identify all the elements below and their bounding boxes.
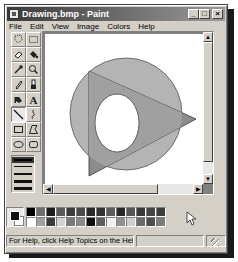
line-width-2[interactable] — [14, 166, 32, 167]
tool-brush[interactable] — [26, 77, 41, 92]
tool-fill[interactable] — [26, 47, 41, 62]
scroll-down-button[interactable]: ▼ — [203, 174, 213, 184]
palette-swatch[interactable] — [56, 207, 66, 217]
paint-bucket-icon — [28, 49, 39, 60]
palette-swatch[interactable] — [146, 207, 156, 217]
palette-swatch[interactable] — [86, 217, 96, 227]
palette-swatch[interactable] — [146, 217, 156, 227]
vertical-scroll-thumb[interactable] — [203, 42, 213, 162]
canvas-area: ▲ ▼ ◀ ▶ — [42, 31, 214, 195]
current-colors — [6, 207, 24, 227]
palette-swatch[interactable] — [26, 207, 36, 217]
palette-swatch[interactable] — [66, 207, 76, 217]
eyedropper-icon — [13, 64, 24, 75]
scroll-left-button[interactable]: ◀ — [43, 184, 53, 194]
palette-swatch[interactable] — [96, 217, 106, 227]
rectangle-icon — [13, 124, 24, 135]
palette-swatch[interactable] — [126, 217, 136, 227]
tool-airbrush[interactable] — [11, 92, 26, 107]
pencil-icon — [13, 79, 24, 90]
resize-grip[interactable] — [211, 238, 219, 246]
horizontal-scrollbar[interactable]: ◀ ▶ — [43, 184, 203, 194]
tool-line[interactable] — [11, 107, 26, 122]
rounded-rect-icon — [28, 139, 39, 150]
tool-text[interactable]: A — [26, 92, 41, 107]
ellipse-icon — [13, 139, 24, 150]
tool-curve[interactable] — [26, 107, 41, 122]
tool-magnifier[interactable] — [26, 62, 41, 77]
palette-swatch[interactable] — [116, 207, 126, 217]
status-coordinates — [136, 235, 204, 247]
eraser-icon — [13, 49, 24, 60]
drawing-canvas[interactable] — [45, 34, 205, 184]
palette-swatch[interactable] — [136, 217, 146, 227]
scroll-right-button[interactable]: ▶ — [193, 184, 203, 194]
palette-swatch[interactable] — [46, 217, 56, 227]
line-icon — [13, 109, 24, 120]
color-palette — [6, 207, 206, 231]
palette-swatch[interactable] — [76, 217, 86, 227]
foreground-color[interactable] — [10, 211, 20, 221]
title-bar[interactable]: Drawing.bmp - Paint _ □ × — [7, 7, 225, 21]
airbrush-icon — [13, 94, 24, 105]
palette-swatch[interactable] — [96, 207, 106, 217]
palette-swatch[interactable] — [26, 217, 36, 227]
minimize-button[interactable]: _ — [188, 9, 199, 19]
tool-eraser[interactable] — [11, 47, 26, 62]
palette-swatch[interactable] — [116, 217, 126, 227]
palette-swatch[interactable] — [106, 217, 116, 227]
palette-swatch[interactable] — [126, 207, 136, 217]
horizontal-scroll-thumb[interactable] — [53, 184, 158, 194]
brush-icon — [28, 79, 39, 90]
rect-select-icon — [28, 34, 39, 45]
palette-swatch[interactable] — [46, 207, 56, 217]
vertical-scrollbar[interactable]: ▲ ▼ — [203, 32, 213, 184]
palette-swatch[interactable] — [36, 217, 46, 227]
polygon-icon — [28, 124, 39, 135]
white-ellipse-shape — [95, 94, 139, 152]
line-width-5[interactable] — [14, 187, 32, 190]
scroll-up-button[interactable]: ▲ — [203, 32, 213, 42]
line-width-1[interactable] — [14, 159, 32, 161]
mouse-cursor — [186, 211, 198, 231]
palette-swatch[interactable] — [156, 217, 166, 227]
tool-polygon[interactable] — [26, 122, 41, 137]
drawing — [45, 34, 205, 184]
tool-rounded-rectangle[interactable] — [26, 137, 41, 152]
palette-swatch[interactable] — [156, 207, 166, 217]
tool-free-form-select[interactable] — [11, 32, 26, 47]
magnifier-icon — [28, 64, 39, 75]
line-width-4[interactable] — [14, 180, 32, 183]
palette-swatch[interactable] — [136, 207, 146, 217]
palette-swatch[interactable] — [106, 207, 116, 217]
tool-ellipse[interactable] — [11, 137, 26, 152]
curve-icon — [28, 109, 39, 120]
palette-swatch[interactable] — [86, 207, 96, 217]
maximize-button[interactable]: □ — [199, 9, 210, 19]
close-button[interactable]: × — [212, 9, 223, 19]
status-help-text: For Help, click Help Topics on the Help … — [6, 235, 134, 247]
line-width-options — [11, 155, 35, 193]
freeform-select-icon — [13, 34, 24, 45]
line-width-3[interactable] — [14, 173, 32, 175]
window-title: Drawing.bmp - Paint — [22, 9, 188, 19]
tool-pencil[interactable] — [11, 77, 26, 92]
tool-rectangle[interactable] — [11, 122, 26, 137]
tool-pick-color[interactable] — [11, 62, 26, 77]
palette-swatch[interactable] — [76, 207, 86, 217]
tool-select[interactable] — [26, 32, 41, 47]
text-icon: A — [30, 94, 38, 106]
palette-swatch[interactable] — [66, 217, 76, 227]
palette-swatch[interactable] — [56, 217, 66, 227]
status-bar: For Help, click Help Topics on the Help … — [4, 235, 220, 247]
paint-app-icon[interactable] — [9, 9, 19, 19]
palette-swatch[interactable] — [36, 207, 46, 217]
